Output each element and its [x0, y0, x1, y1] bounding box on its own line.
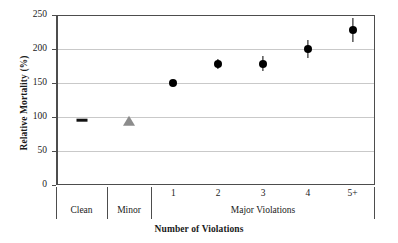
x-axis-band-edge: [56, 187, 57, 219]
y-axis-tick-label: 150: [0, 78, 47, 88]
gridline: [56, 83, 375, 84]
x-axis-tick-label: 2: [216, 188, 221, 198]
x-axis-group-label: Minor: [117, 205, 141, 215]
x-axis-tick-label: 1: [171, 188, 176, 198]
axis-line-right: [374, 15, 376, 185]
x-axis-tick-label: 5+: [348, 188, 358, 198]
x-axis-tick-label: 3: [261, 188, 266, 198]
y-axis-tick-label: 100: [0, 112, 47, 122]
y-axis-tick-label: 250: [0, 10, 47, 20]
circle-marker: [214, 60, 222, 68]
y-axis-tick-label: 200: [0, 44, 47, 54]
gridline: [56, 151, 375, 152]
dash-marker: [76, 119, 87, 122]
x-axis-category-separator: [107, 187, 108, 219]
x-axis-category-separator: [151, 187, 152, 219]
circle-marker: [304, 45, 312, 53]
x-axis-title: Number of Violations: [0, 224, 398, 234]
y-axis-tick-label: 50: [0, 146, 47, 156]
x-axis-group-label: Clean: [70, 205, 92, 215]
circle-marker: [349, 26, 357, 34]
gridline: [56, 49, 375, 50]
axis-line-bottom: [56, 184, 375, 186]
plot-area: [56, 15, 375, 185]
chart-figure: Relative Mortality (%) 050100150200250 1…: [0, 0, 398, 243]
circle-marker: [169, 79, 177, 87]
x-axis-tick-label: 4: [305, 188, 310, 198]
x-axis-band-edge: [374, 187, 375, 219]
x-axis-group-label: Major Violations: [231, 205, 295, 215]
axis-line-left: [56, 15, 58, 185]
y-axis-tick-label: 0: [0, 180, 47, 190]
circle-marker: [259, 60, 267, 68]
triangle-marker: [123, 116, 135, 126]
x-axis-category-band: 12345+CleanMinorMajor Violations: [56, 187, 375, 219]
axis-line-top: [56, 15, 375, 16]
gridline: [56, 117, 375, 118]
